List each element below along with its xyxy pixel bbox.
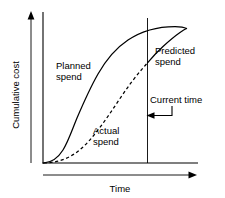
x-axis-label: Time: [110, 183, 131, 194]
current-time-label: Current time: [150, 94, 202, 105]
cumulative-cost-diagram: Cumulative cost Planned spend Actual spe…: [0, 0, 225, 198]
planned-spend-label-line1: Planned: [56, 60, 91, 71]
planned-spend-label-line2: spend: [56, 71, 82, 82]
plot-axes: [42, 12, 198, 164]
predicted-spend-label-line2: spend: [155, 56, 181, 67]
actual-spend-label-line2: spend: [93, 136, 119, 147]
y-axis-arrow: [28, 11, 35, 163]
actual-spend-label: Actual spend: [93, 125, 119, 147]
predicted-spend-label: Predicted spend: [155, 45, 195, 67]
planned-spend-label: Planned spend: [56, 60, 91, 82]
y-axis-label: Cumulative cost: [10, 61, 21, 129]
diagram-canvas: Cumulative cost Planned spend Actual spe…: [0, 0, 225, 198]
predicted-spend-label-line1: Predicted: [155, 45, 195, 56]
x-axis-arrow: [43, 172, 197, 179]
current-time-leader: [147, 106, 173, 119]
actual-spend-label-line1: Actual: [93, 125, 119, 136]
